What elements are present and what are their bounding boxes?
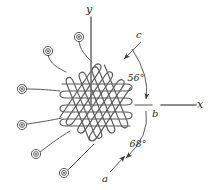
strain-rosette-figure: y x c b a 56° 68° [0,0,210,190]
solder-pad-5[interactable] [31,149,40,158]
x-axis-label: x [197,98,204,111]
solder-pad-2[interactable] [43,46,52,55]
gauge-label-a: a [102,173,108,184]
y-axis-label: y [85,3,93,16]
solder-pad-3[interactable] [17,84,26,93]
solder-pad-1[interactable] [74,32,83,41]
gauge-label-c: c [136,29,142,40]
gauge-label-b: b [152,108,158,119]
solder-pad-6[interactable] [59,168,68,177]
figure-background [0,0,210,190]
solder-pad-4[interactable] [17,120,26,129]
angle-label-a: 68° [130,138,147,149]
angle-label-c: 56° [128,72,145,83]
